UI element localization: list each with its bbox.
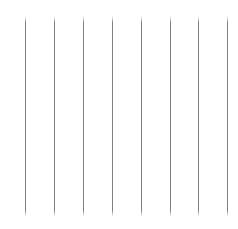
vertical-line-4 [112, 16, 113, 217]
vertical-line-5 [141, 16, 142, 217]
vertical-line-3 [83, 16, 84, 217]
vertical-line-2 [54, 16, 55, 217]
vertical-line-field [0, 0, 238, 229]
vertical-line-6 [170, 16, 171, 217]
vertical-line-7 [198, 16, 199, 217]
vertical-line-8 [227, 16, 228, 217]
vertical-line-1 [25, 16, 26, 217]
graphic-canvas [0, 0, 238, 229]
